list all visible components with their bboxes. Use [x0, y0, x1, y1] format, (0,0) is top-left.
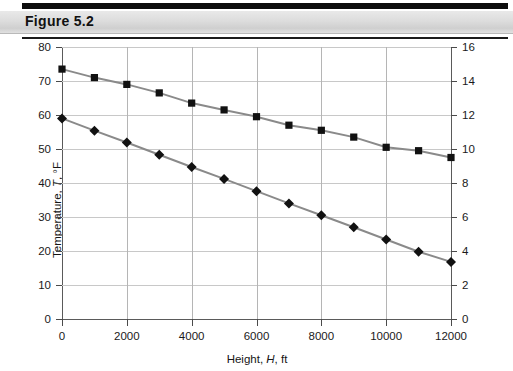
data-point-square: [350, 134, 357, 141]
data-point-square: [58, 66, 65, 73]
y-axis-right-tick-label: 4: [462, 245, 468, 257]
y-axis-right-tick-label: 0: [462, 313, 468, 325]
x-title-post: , ft: [275, 353, 288, 365]
data-point-diamond: [284, 198, 294, 208]
x-axis-tick: [127, 319, 128, 326]
y-axis-left-tick-label: 30: [38, 211, 51, 223]
data-point-diamond: [219, 174, 229, 184]
figure-page: Figure 5.2 Temperature, T, °F Pressure, …: [0, 0, 513, 371]
y-axis-left-tick-label: 40: [38, 177, 51, 189]
data-point-square: [318, 127, 325, 134]
plot-region: 0102030405060708002468101214160200040006…: [62, 47, 452, 320]
data-point-diamond: [446, 257, 456, 267]
x-axis-tick-label: 6000: [244, 330, 270, 342]
y-axis-left-tick-label: 10: [38, 279, 51, 291]
data-point-diamond: [414, 247, 424, 257]
x-axis-tick: [386, 319, 387, 326]
y-axis-right-tick-label: 12: [462, 109, 475, 121]
chart-area: Temperature, T, °F Pressure, P, lbf/in2 …: [0, 40, 513, 371]
x-axis-title: Height, H, ft: [227, 353, 288, 365]
y-axis-left-tick-label: 80: [38, 41, 51, 53]
x-axis-tick: [62, 319, 63, 326]
data-point-square: [91, 74, 98, 81]
data-point-square: [123, 81, 130, 88]
series-layer: [62, 47, 452, 320]
y-axis-right-tick-label: 16: [462, 41, 475, 53]
data-point-diamond: [154, 150, 164, 160]
figure-label: Figure 5.2: [25, 13, 94, 29]
data-point-diamond: [187, 162, 197, 172]
y-axis-left-tick-label: 70: [38, 75, 51, 87]
data-point-diamond: [122, 138, 132, 148]
x-axis-tick: [192, 319, 193, 326]
y-axis-right-tick-label: 6: [462, 211, 468, 223]
x-axis-tick: [257, 319, 258, 326]
header-underline: [22, 37, 508, 39]
header-top-rule: [22, 3, 508, 9]
y-axis-right-tick-label: 10: [462, 143, 475, 155]
data-point-diamond: [89, 126, 99, 136]
x-title-symbol: H: [266, 353, 274, 365]
y-axis-left-tick-label: 0: [45, 313, 51, 325]
x-axis-tick-label: 2000: [114, 330, 140, 342]
y-axis-right-tick-label: 2: [462, 279, 468, 291]
data-point-square: [253, 113, 260, 120]
data-point-square: [383, 144, 390, 151]
data-point-diamond: [381, 234, 391, 244]
x-axis-tick-label: 10000: [370, 330, 402, 342]
x-axis-tick-label: 12000: [435, 330, 467, 342]
x-axis-tick-label: 8000: [309, 330, 335, 342]
x-axis-tick-label: 4000: [179, 330, 205, 342]
y-axis-left-tick-label: 60: [38, 109, 51, 121]
y-axis-left-tick-label: 50: [38, 143, 51, 155]
x-title-pre: Height,: [227, 353, 267, 365]
y-axis-left-tick-label: 20: [38, 245, 51, 257]
data-point-square: [188, 100, 195, 107]
x-axis-tick-label: 0: [59, 330, 65, 342]
data-point-square: [447, 154, 454, 161]
x-axis-tick: [451, 319, 452, 326]
y-axis-right-tick-label: 14: [462, 75, 475, 87]
data-point-square: [415, 147, 422, 154]
data-point-square: [220, 106, 227, 113]
y-axis-right-tick-label: 8: [462, 177, 468, 189]
data-point-square: [285, 122, 292, 129]
data-point-diamond: [252, 186, 262, 196]
data-point-diamond: [349, 222, 359, 232]
data-point-square: [156, 89, 163, 96]
data-point-diamond: [316, 210, 326, 220]
x-axis-tick: [321, 319, 322, 326]
